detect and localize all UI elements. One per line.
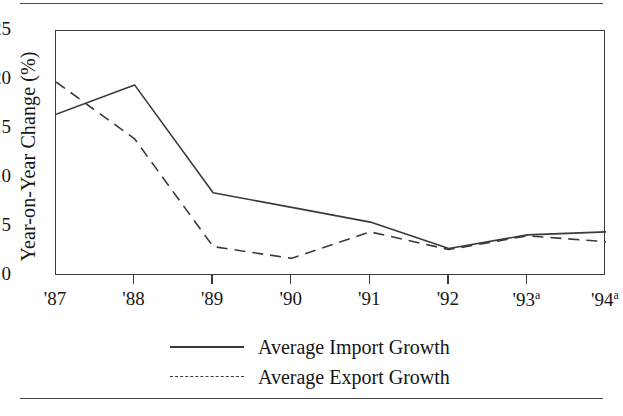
y-axis-tick-label: 15 [0, 117, 11, 136]
y-axis-title: Year-on-Year Change (%) [17, 24, 40, 289]
legend-label-import: Average Import Growth [246, 336, 450, 359]
x-axis-tick-label: '89 [177, 288, 247, 310]
x-axis-tick-label: '87 [20, 288, 90, 310]
x-axis-tick-label: '88 [99, 288, 169, 310]
legend-item-import: Average Import Growth [168, 332, 498, 362]
chart-legend: Average Import Growth Average Export Gro… [168, 332, 498, 392]
y-axis-tick-label: 5 [0, 215, 11, 234]
legend-line-sample-solid-icon [168, 340, 246, 354]
y-axis-tick-label: 20 [0, 68, 11, 87]
x-axis-tick-label: '94a [570, 288, 623, 311]
legend-item-export: Average Export Growth [168, 362, 498, 392]
x-axis-tick-label: '91 [334, 288, 404, 310]
y-axis-tick-label: 0 [0, 264, 11, 283]
legend-line-sample-dashed-icon [168, 370, 246, 384]
y-axis-tick-label: 25 [0, 19, 11, 38]
x-axis-tick-mark [211, 275, 212, 284]
line-chart-figure: Year-on-Year Change (%) 2520151050 '87'8… [0, 0, 623, 416]
plot-area [55, 30, 605, 275]
series-line-import [56, 85, 606, 249]
x-axis-tick-label: '92 [413, 288, 483, 310]
x-axis-tick-mark [526, 275, 527, 284]
series-line-export [56, 82, 606, 258]
x-axis-tick-label: '93a [491, 288, 561, 311]
bottom-divider-rule [20, 398, 603, 399]
x-axis-tick-mark [447, 275, 448, 284]
x-axis-tick-superscript: a [535, 288, 540, 302]
x-axis-tick-superscript: a [614, 288, 619, 302]
x-axis-tick-mark [133, 275, 134, 284]
legend-label-export: Average Export Growth [246, 366, 450, 389]
x-axis-tick-mark [369, 275, 370, 284]
y-axis-tick-label: 10 [0, 166, 11, 185]
x-axis-tick-mark [290, 275, 291, 284]
plot-lines-svg [56, 31, 606, 276]
x-axis-tick-label: '90 [256, 288, 326, 310]
